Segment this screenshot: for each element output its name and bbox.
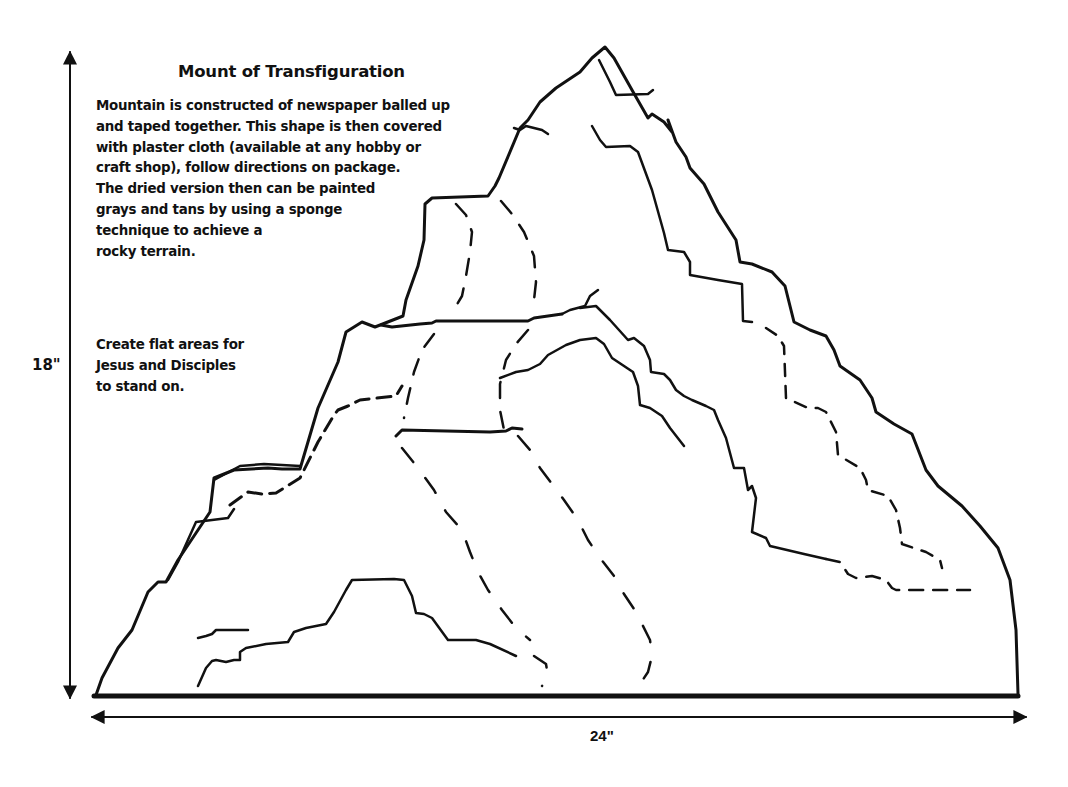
note-line: Create flat areas for bbox=[96, 335, 244, 356]
instruction-line: rocky terrain. bbox=[96, 242, 450, 263]
instruction-line: craft shop), follow directions on packag… bbox=[96, 158, 450, 179]
instruction-line: and taped together. This shape is then c… bbox=[96, 117, 450, 138]
ledge-line bbox=[396, 428, 522, 436]
construction-instructions: Mountain is constructed of newspaper bal… bbox=[96, 96, 450, 262]
mountain-diagram: Mount of Transfiguration Mountain is con… bbox=[0, 0, 1068, 787]
instruction-line: with plaster cloth (available at any hob… bbox=[96, 138, 450, 159]
instruction-line: The dried version then can be painted bbox=[96, 179, 450, 200]
width-dimension-label: 24" bbox=[590, 727, 614, 744]
ravine-line-dashed bbox=[402, 448, 530, 640]
instruction-line: grays and tans by using a sponge bbox=[96, 200, 450, 221]
height-dimension-label: 18" bbox=[32, 356, 61, 374]
ridge-line bbox=[500, 338, 684, 446]
ravine-line-dashed bbox=[501, 201, 536, 300]
ravine-line-dashed bbox=[404, 334, 434, 418]
ravine-line-dashed bbox=[518, 436, 652, 690]
ridge-line bbox=[580, 306, 826, 559]
ridge-line-dashed bbox=[826, 559, 970, 590]
ravine-line-dashed bbox=[456, 204, 472, 306]
foothill-line bbox=[198, 579, 516, 686]
ledge-line-dashed bbox=[230, 386, 402, 505]
ledge-line bbox=[198, 630, 248, 638]
ledge-line bbox=[381, 314, 562, 327]
flat-areas-note: Create flat areas for Jesus and Disciple… bbox=[96, 335, 244, 397]
ledge-line bbox=[168, 509, 234, 580]
note-line: Jesus and Disciples bbox=[96, 356, 244, 377]
ridge-line bbox=[592, 126, 752, 322]
ledge-line bbox=[562, 290, 598, 314]
instruction-line: Mountain is constructed of newspaper bal… bbox=[96, 96, 450, 117]
ravine-line-dashed bbox=[534, 656, 548, 686]
diagram-title: Mount of Transfiguration bbox=[178, 62, 405, 81]
note-line: to stand on. bbox=[96, 377, 244, 398]
ledge-line bbox=[214, 464, 300, 480]
ravine-line-dashed bbox=[500, 330, 528, 430]
instruction-line: technique to achieve a bbox=[96, 221, 450, 242]
ridge-line-dashed bbox=[766, 328, 942, 568]
